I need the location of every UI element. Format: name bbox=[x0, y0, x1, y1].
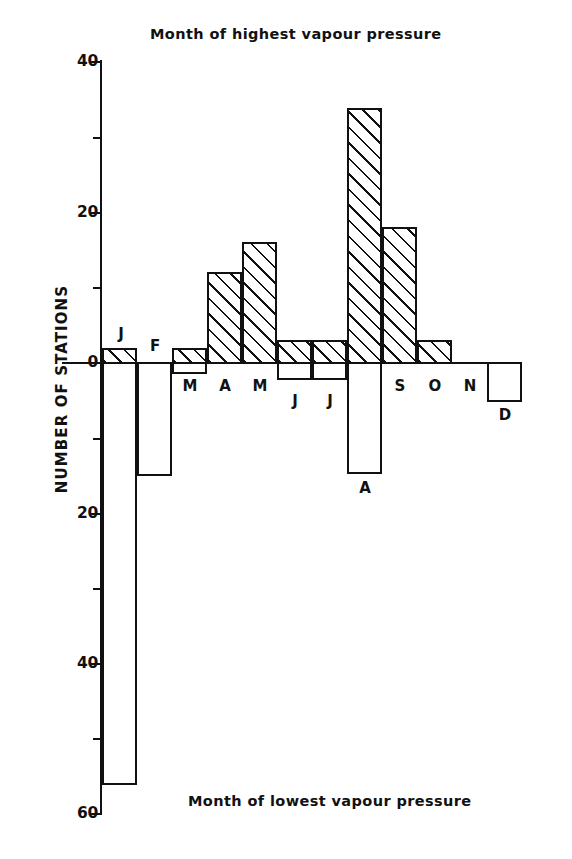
bar-positive-aug bbox=[347, 108, 382, 364]
chart-title-bottom: Month of lowest vapour pressure bbox=[188, 793, 568, 809]
month-label-mar: M bbox=[181, 377, 199, 395]
month-label-nov: N bbox=[461, 377, 479, 395]
month-label-apr: A bbox=[216, 377, 234, 395]
month-label-sep: S bbox=[391, 377, 409, 395]
bar-positive-oct bbox=[417, 340, 452, 364]
bar-negative-mar bbox=[172, 362, 207, 374]
bar-negative-jul bbox=[312, 362, 347, 380]
bar-positive-may bbox=[242, 242, 277, 364]
month-label-aug: A bbox=[356, 479, 374, 497]
plot-area: 40 20 0 20 40 60 bbox=[0, 0, 572, 859]
bar-negative-feb bbox=[137, 362, 172, 476]
month-label-dec: D bbox=[496, 406, 514, 424]
bar-positive-jul bbox=[312, 340, 347, 364]
bar-positive-sep bbox=[382, 227, 417, 364]
bar-positive-apr bbox=[207, 272, 242, 364]
month-label-feb: F bbox=[146, 337, 164, 355]
month-label-jan: J bbox=[112, 325, 130, 343]
month-label-jun: J bbox=[286, 392, 304, 410]
bar-group bbox=[0, 0, 572, 859]
month-label-may: M bbox=[251, 377, 269, 395]
bar-negative-jan bbox=[102, 362, 137, 785]
month-label-jul: J bbox=[321, 392, 339, 410]
bar-negative-dec bbox=[487, 362, 522, 402]
figure: Month of highest vapour pressure NUMBER … bbox=[0, 0, 572, 859]
bar-negative-aug bbox=[347, 362, 382, 474]
month-label-oct: O bbox=[426, 377, 444, 395]
bar-positive-jun bbox=[277, 340, 312, 364]
bar-negative-jun bbox=[277, 362, 312, 380]
